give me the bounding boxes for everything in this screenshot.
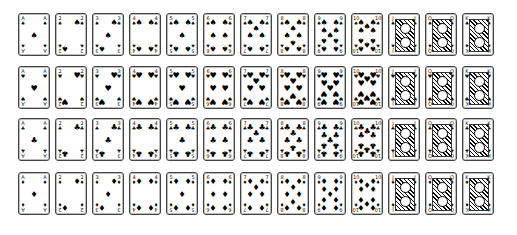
card-j-of-diamonds[interactable]: J ♦J ♦J ♦J ♦: [388, 172, 420, 215]
hearts-pip-icon: ♥: [246, 85, 254, 93]
clubs-pip-icon: ♣: [147, 149, 155, 157]
diamonds-pip-icon: ♦: [104, 191, 112, 199]
hearts-pip-icon: ♥: [104, 85, 112, 93]
spades-pip-icon: ♠: [295, 44, 303, 52]
card-5-of-spades[interactable]: 5 ♠5 ♠5 ♠5 ♠♠♠♠♠♠: [166, 13, 198, 56]
card-j-of-clubs[interactable]: J ♣J ♣J ♣J ♣: [388, 118, 420, 161]
diamonds-pip-icon: ♦: [283, 203, 291, 211]
card-7-of-diamonds[interactable]: 7 ♦7 ♦7 ♦7 ♦♦♦♦♦♦♦♦: [240, 172, 272, 215]
clubs-pip-icon: ♣: [357, 149, 365, 157]
spades-pip-icon: ♠: [369, 27, 377, 35]
card-9-of-spades[interactable]: 9 ♠9 ♠9 ♠9 ♠♠♠♠♠♠♠♠♠♠: [314, 13, 346, 56]
clubs-pip-icon: ♣: [246, 137, 254, 145]
diamonds-pip-icon: ♦: [30, 191, 38, 199]
hearts-pip-icon: ♥: [369, 97, 377, 105]
hearts-pip-icon: ♥: [147, 72, 155, 80]
clubs-pip-icon: ♣: [332, 141, 340, 149]
card-q-of-diamonds[interactable]: Q ♦Q ♦Q ♦Q ♦: [425, 172, 457, 215]
card-4-of-diamonds[interactable]: 4 ♦4 ♦4 ♦4 ♦♦♦♦♦: [129, 172, 161, 215]
hearts-pip-icon: ♥: [110, 72, 118, 80]
card-10-of-diamonds[interactable]: 10 ♦10 ♦10 ♦10 ♦♦♦♦♦♦♦♦♦♦♦: [351, 172, 383, 215]
card-5-of-clubs[interactable]: 5 ♣5 ♣5 ♣5 ♣♣♣♣♣♣: [166, 118, 198, 161]
card-6-of-clubs[interactable]: 6 ♣6 ♣6 ♣6 ♣♣♣♣♣♣♣: [203, 118, 235, 161]
card-3-of-hearts[interactable]: 3 ♥3 ♥3 ♥3 ♥♥♥♥: [92, 66, 124, 109]
card-q-of-clubs[interactable]: Q ♣Q ♣Q ♣Q ♣: [425, 118, 457, 161]
diamonds-pip-icon: ♦: [172, 203, 180, 211]
card-q-of-spades[interactable]: Q ♠Q ♠Q ♠Q ♠: [425, 13, 457, 56]
clubs-pip-icon: ♣: [147, 124, 155, 132]
card-4-of-spades[interactable]: 4 ♠4 ♠4 ♠4 ♠♠♠♠♠: [129, 13, 161, 56]
card-a-of-diamonds[interactable]: A ♦A ♦A ♦A ♦♦: [18, 172, 50, 215]
card-a-of-hearts[interactable]: A ♥A ♥A ♥A ♥♥: [18, 66, 50, 109]
card-3-of-diamonds[interactable]: 3 ♦3 ♦3 ♦3 ♦♦♦♦: [92, 172, 124, 215]
hearts-pip-icon: ♥: [61, 97, 69, 105]
diamonds-pip-icon: ♦: [61, 203, 69, 211]
spades-pip-icon: ♠: [184, 19, 192, 27]
card-7-of-spades[interactable]: 7 ♠7 ♠7 ♠7 ♠♠♠♠♠♠♠♠: [240, 13, 272, 56]
card-7-of-clubs[interactable]: 7 ♣7 ♣7 ♣7 ♣♣♣♣♣♣♣♣: [240, 118, 272, 161]
card-9-of-clubs[interactable]: 9 ♣9 ♣9 ♣9 ♣♣♣♣♣♣♣♣♣♣: [314, 118, 346, 161]
clubs-pip-icon: ♣: [184, 149, 192, 157]
hearts-pip-icon: ♥: [357, 97, 365, 105]
diamonds-pip-icon: ♦: [110, 178, 118, 186]
diamonds-pip-icon: ♦: [184, 203, 192, 211]
spades-pip-icon: ♠: [221, 44, 229, 52]
diamonds-pip-icon: ♦: [357, 186, 365, 194]
spades-pip-icon: ♠: [332, 44, 340, 52]
card-9-of-hearts[interactable]: 9 ♥9 ♥9 ♥9 ♥♥♥♥♥♥♥♥♥♥: [314, 66, 346, 109]
diamonds-pip-icon: ♦: [73, 178, 81, 186]
clubs-pip-icon: ♣: [98, 149, 106, 157]
hearts-pip-icon: ♥: [209, 85, 217, 93]
card-8-of-clubs[interactable]: 8 ♣8 ♣8 ♣8 ♣♣♣♣♣♣♣♣♣: [277, 118, 309, 161]
card-6-of-hearts[interactable]: 6 ♥6 ♥6 ♥6 ♥♥♥♥♥♥♥: [203, 66, 235, 109]
card-4-of-hearts[interactable]: 4 ♥4 ♥4 ♥4 ♥♥♥♥♥: [129, 66, 161, 109]
card-2-of-hearts[interactable]: 2 ♥2 ♥2 ♥2 ♥♥♥: [55, 66, 87, 109]
card-2-of-clubs[interactable]: 2 ♣2 ♣2 ♣2 ♣♣♣: [55, 118, 87, 161]
card-k-of-spades[interactable]: K ♠K ♠K ♠K ♠: [462, 13, 494, 56]
spades-pip-icon: ♠: [172, 44, 180, 52]
card-j-of-spades[interactable]: J ♠J ♠J ♠J ♠: [388, 13, 420, 56]
card-a-of-spades[interactable]: A ♠A ♠A ♠A ♠♠: [18, 13, 50, 56]
diamonds-pip-icon: ♦: [221, 178, 229, 186]
diamonds-pip-icon: ♦: [184, 178, 192, 186]
card-10-of-clubs[interactable]: 10 ♣10 ♣10 ♣10 ♣♣♣♣♣♣♣♣♣♣♣: [351, 118, 383, 161]
card-9-of-diamonds[interactable]: 9 ♦9 ♦9 ♦9 ♦♦♦♦♦♦♦♦♦♦: [314, 172, 346, 215]
card-5-of-hearts[interactable]: 5 ♥5 ♥5 ♥5 ♥♥♥♥♥♥: [166, 66, 198, 109]
clubs-pip-icon: ♣: [332, 149, 340, 157]
card-3-of-clubs[interactable]: 3 ♣3 ♣3 ♣3 ♣♣♣♣: [92, 118, 124, 161]
diamonds-pip-icon: ♦: [320, 195, 328, 203]
card-2-of-spades[interactable]: 2 ♠2 ♠2 ♠2 ♠♠♠: [55, 13, 87, 56]
card-6-of-diamonds[interactable]: 6 ♦6 ♦6 ♦6 ♦♦♦♦♦♦♦: [203, 172, 235, 215]
face-figure-icon: [432, 19, 452, 52]
face-figure-icon: [432, 124, 452, 157]
card-3-of-spades[interactable]: 3 ♠3 ♠3 ♠3 ♠♠♠♠: [92, 13, 124, 56]
card-8-of-diamonds[interactable]: 8 ♦8 ♦8 ♦8 ♦♦♦♦♦♦♦♦♦: [277, 172, 309, 215]
spades-pip-icon: ♠: [369, 44, 377, 52]
card-8-of-spades[interactable]: 8 ♠8 ♠8 ♠8 ♠♠♠♠♠♠♠♠♠: [277, 13, 309, 56]
hearts-pip-icon: ♥: [221, 85, 229, 93]
card-j-of-hearts[interactable]: J ♥J ♥J ♥J ♥: [388, 66, 420, 109]
card-a-of-clubs[interactable]: A ♣A ♣A ♣A ♣♣: [18, 118, 50, 161]
spades-pip-icon: ♠: [172, 19, 180, 27]
spades-pip-icon: ♠: [73, 19, 81, 27]
diamonds-pip-icon: ♦: [357, 203, 365, 211]
face-figure-icon: [469, 178, 489, 211]
card-k-of-diamonds[interactable]: K ♦K ♦K ♦K ♦: [462, 172, 494, 215]
card-10-of-spades[interactable]: 10 ♠10 ♠10 ♠10 ♠♠♠♠♠♠♠♠♠♠♠: [351, 13, 383, 56]
card-4-of-clubs[interactable]: 4 ♣4 ♣4 ♣4 ♣♣♣♣♣: [129, 118, 161, 161]
clubs-pip-icon: ♣: [258, 149, 266, 157]
hearts-pip-icon: ♥: [30, 85, 38, 93]
card-2-of-diamonds[interactable]: 2 ♦2 ♦2 ♦2 ♦♦♦: [55, 172, 87, 215]
card-10-of-hearts[interactable]: 10 ♥10 ♥10 ♥10 ♥♥♥♥♥♥♥♥♥♥♥: [351, 66, 383, 109]
card-7-of-hearts[interactable]: 7 ♥7 ♥7 ♥7 ♥♥♥♥♥♥♥♥: [240, 66, 272, 109]
card-6-of-spades[interactable]: 6 ♠6 ♠6 ♠6 ♠♠♠♠♠♠♠: [203, 13, 235, 56]
diamonds-pip-icon: ♦: [295, 203, 303, 211]
diamonds-pip-icon: ♦: [147, 203, 155, 211]
clubs-pip-icon: ♣: [209, 137, 217, 145]
card-k-of-hearts[interactable]: K ♥K ♥K ♥K ♥: [462, 66, 494, 109]
card-5-of-diamonds[interactable]: 5 ♦5 ♦5 ♦5 ♦♦♦♦♦♦: [166, 172, 198, 215]
card-q-of-hearts[interactable]: Q ♥Q ♥Q ♥Q ♥: [425, 66, 457, 109]
card-k-of-clubs[interactable]: K ♣K ♣K ♣K ♣: [462, 118, 494, 161]
card-8-of-hearts[interactable]: 8 ♥8 ♥8 ♥8 ♥♥♥♥♥♥♥♥♥: [277, 66, 309, 109]
clubs-pip-icon: ♣: [295, 149, 303, 157]
